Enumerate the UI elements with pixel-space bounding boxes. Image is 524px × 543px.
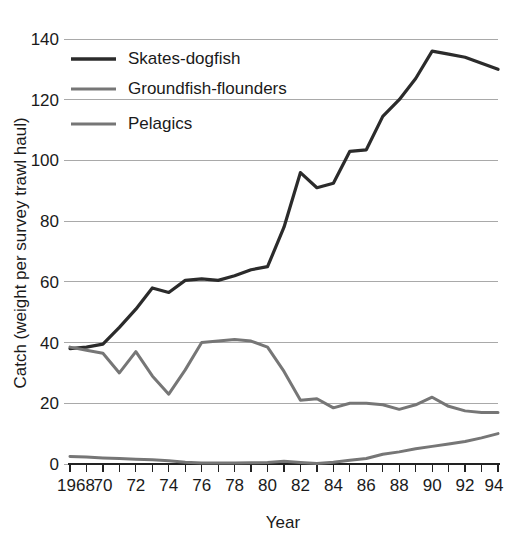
y-axis-title: Catch (weight per survey trawl haul) — [11, 117, 30, 388]
chart-container: 020406080100120140 196870727476788082848… — [0, 0, 524, 543]
x-tick-label: 92 — [456, 476, 475, 495]
y-tick-stubs — [64, 39, 88, 464]
line-chart: 020406080100120140 196870727476788082848… — [0, 0, 524, 543]
series-line-groundfish-flounders — [70, 340, 498, 413]
x-tick-label: 90 — [423, 476, 442, 495]
x-tick-label: 86 — [357, 476, 376, 495]
x-axis-tick-labels: 196870727476788082848688909294 — [57, 476, 503, 495]
y-tick-label: 140 — [31, 30, 59, 49]
y-tick-label: 100 — [31, 151, 59, 170]
x-tick-label: 84 — [324, 476, 343, 495]
x-tick-label: 1968 — [57, 476, 95, 495]
y-tick-label: 0 — [50, 455, 59, 474]
legend-label: Groundfish-flounders — [128, 79, 287, 98]
y-axis-tick-labels: 020406080100120140 — [31, 30, 59, 474]
chart-legend: Skates-dogfishGroundfish-floundersPelagi… — [71, 49, 287, 133]
x-tick-label: 74 — [159, 476, 178, 495]
y-tick-label: 20 — [40, 394, 59, 413]
x-tick-label: 76 — [192, 476, 211, 495]
x-axis-title: Year — [266, 513, 301, 532]
x-axis-ticks — [70, 464, 498, 472]
x-tick-label: 82 — [291, 476, 310, 495]
x-tick-label: 80 — [258, 476, 277, 495]
x-tick-label: 88 — [390, 476, 409, 495]
legend-label: Pelagics — [128, 114, 192, 133]
legend-label: Skates-dogfish — [128, 49, 240, 68]
series-line-pelagics — [70, 434, 498, 464]
y-tick-label: 40 — [40, 334, 59, 353]
y-tick-label: 60 — [40, 273, 59, 292]
x-tick-label: 94 — [485, 476, 504, 495]
data-series — [70, 51, 498, 463]
y-tick-label: 120 — [31, 91, 59, 110]
x-tick-label: 70 — [93, 476, 112, 495]
x-tick-label: 78 — [225, 476, 244, 495]
x-tick-label: 72 — [126, 476, 145, 495]
y-tick-label: 80 — [40, 212, 59, 231]
